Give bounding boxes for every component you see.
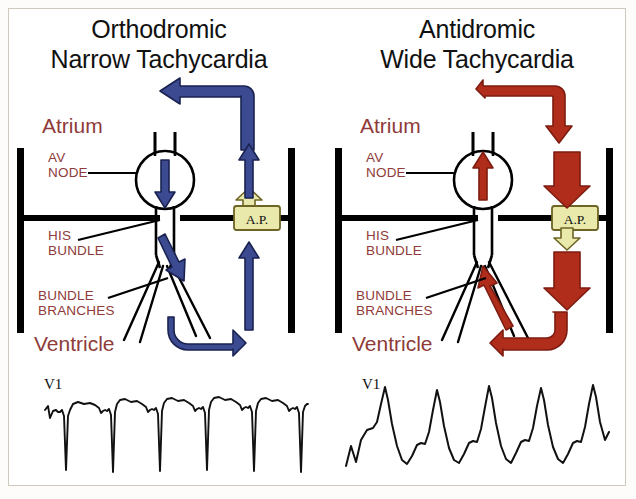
ecg-trace-antidromic bbox=[318, 0, 636, 499]
panel-antidromic: Antidromic Wide Tachycardia bbox=[318, 0, 636, 499]
ecg-trace-orthodromic bbox=[0, 0, 318, 499]
panel-orthodromic: Orthodromic Narrow Tachycardia bbox=[0, 0, 318, 499]
figure-canvas: Orthodromic Narrow Tachycardia bbox=[0, 0, 636, 499]
